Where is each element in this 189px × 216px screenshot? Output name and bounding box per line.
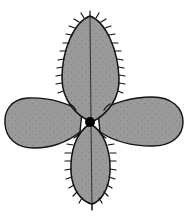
leaf-rosette-drawing <box>0 0 189 216</box>
center-bud <box>85 117 95 127</box>
illustration <box>0 0 189 216</box>
